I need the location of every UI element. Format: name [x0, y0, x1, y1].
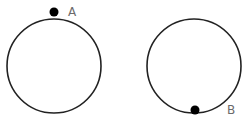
- diagram-canvas: A B: [0, 0, 248, 121]
- left-circle: [7, 19, 101, 113]
- point-b-label: B: [227, 103, 235, 117]
- right-circle: [147, 19, 241, 113]
- point-a-label: A: [68, 5, 77, 19]
- point-a-dot: [50, 8, 59, 17]
- point-b-dot: [191, 106, 200, 115]
